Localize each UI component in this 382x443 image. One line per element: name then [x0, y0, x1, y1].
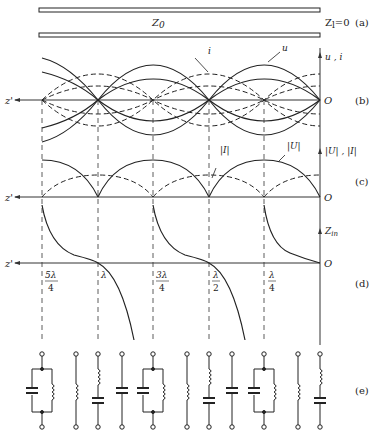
series-lc-circuit	[203, 352, 215, 429]
d-z-axis-label: z'	[4, 258, 13, 269]
capacitor-circuit	[116, 352, 128, 429]
svg-text:4: 4	[269, 283, 275, 293]
panel-c	[14, 148, 322, 199]
inductor-circuit	[74, 352, 78, 429]
b-origin: O	[324, 95, 332, 106]
standing-wave-diagram: Z0 Zl=0 (a)	[0, 0, 382, 443]
svg-text:5λ: 5λ	[45, 270, 56, 280]
svg-text:λ: λ	[268, 270, 275, 280]
svg-text:3λ: 3λ	[156, 270, 167, 280]
panel-c-label: (c)	[355, 176, 369, 187]
parallel-lc-circuit	[26, 352, 54, 429]
panel-b-label: (b)	[355, 95, 369, 106]
panel-d	[14, 205, 322, 340]
tick-labels: 5λ4 λ 3λ4 λ2 λ4	[45, 270, 276, 293]
equivalent-circuits	[26, 352, 326, 429]
panel-b	[14, 52, 322, 142]
inductor-circuit	[185, 352, 189, 429]
guide-lines	[42, 100, 264, 340]
c-ylabel: |U| , |I|	[325, 146, 357, 157]
c-I-annotation: |I|	[220, 145, 230, 156]
b-i-annotation: i	[208, 46, 211, 56]
d-ylabel: Zin	[324, 226, 339, 238]
svg-text:2: 2	[213, 283, 219, 293]
parallel-lc-circuit	[248, 352, 276, 429]
svg-text:λ: λ	[100, 270, 107, 280]
svg-text:4: 4	[159, 283, 165, 293]
panel-e-label: (e)	[355, 385, 369, 396]
z0-label: Z0	[151, 17, 165, 30]
svg-text:λ: λ	[212, 270, 219, 280]
inductor-circuit	[296, 352, 300, 429]
capacitor-circuit	[226, 352, 238, 429]
c-z-axis-label: z'	[4, 192, 13, 203]
b-z-axis-label: z'	[4, 95, 13, 106]
series-lc-circuit	[314, 352, 326, 429]
zl-label: Zl=0	[325, 17, 350, 30]
transmission-line	[39, 8, 320, 37]
panel-d-label: (d)	[355, 278, 369, 289]
svg-text:4: 4	[48, 283, 54, 293]
c-U-annotation: |U|	[287, 141, 301, 152]
parallel-lc-circuit	[137, 352, 165, 429]
d-origin: O	[324, 258, 332, 269]
panel-a-label: (a)	[355, 17, 369, 28]
series-lc-circuit	[92, 352, 104, 429]
c-origin: O	[324, 192, 332, 203]
b-ylabel: u , i	[325, 52, 342, 62]
b-u-annotation: u	[282, 43, 288, 53]
